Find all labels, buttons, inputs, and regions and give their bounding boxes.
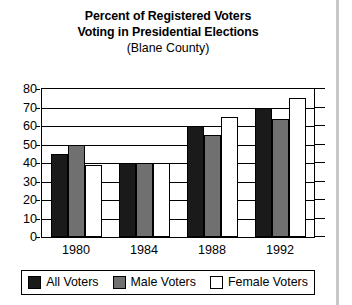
right-axis-tick-20: [315, 199, 325, 200]
x-axis-label-1984: 1984: [110, 243, 178, 257]
y-axis-tick-labels: 01020304050607080: [0, 88, 37, 238]
y-axis-label-0: 0: [5, 231, 37, 244]
y-axis-label-50: 50: [5, 138, 37, 151]
x-axis-tick-labels: 1980198419881992: [42, 243, 314, 259]
bar-1988-all-voters: [187, 126, 204, 237]
legend-entry-all-voters[interactable]: All Voters: [28, 276, 98, 289]
white-swatch-icon: [210, 276, 223, 289]
right-axis-ticks: [315, 88, 327, 238]
legend-entry-male-voters[interactable]: Male Voters: [113, 276, 196, 289]
right-axis-tick-40: [315, 162, 325, 163]
y-axis-label-10: 10: [5, 212, 37, 225]
x-axis-label-1988: 1988: [178, 243, 246, 257]
bar-group-1992: [246, 89, 314, 237]
black-swatch-icon: [28, 276, 41, 289]
y-axis-tick-30: [36, 182, 40, 183]
y-axis-label-20: 20: [5, 194, 37, 207]
chart-legend: All VotersMale VotersFemale Voters: [21, 270, 315, 295]
y-axis-label-80: 80: [5, 83, 37, 96]
bar-1992-male-voters: [272, 119, 289, 237]
bar-1992-female-voters: [289, 98, 306, 237]
bars-layer: [42, 89, 314, 237]
bar-1988-female-voters: [221, 117, 238, 237]
y-axis-label-40: 40: [5, 157, 37, 170]
bar-1984-male-voters: [136, 163, 153, 237]
bar-1984-female-voters: [153, 163, 170, 237]
right-axis-tick-50: [315, 144, 325, 145]
legend-label: Male Voters: [131, 276, 196, 289]
y-axis-tick-50: [36, 145, 40, 146]
legend-label: Female Voters: [228, 276, 308, 289]
y-axis-tick-60: [36, 126, 40, 127]
chart-subtitle: (Blane County): [0, 40, 336, 57]
bar-group-1980: [42, 89, 110, 237]
x-axis-label-1992: 1992: [246, 243, 314, 257]
y-axis-tick-20: [36, 200, 40, 201]
right-axis-tick-60: [315, 125, 325, 126]
right-axis-tick-10: [315, 218, 325, 219]
y-axis-tick-80: [36, 89, 40, 90]
chart-title-block: Percent of Registered Voters Voting in P…: [0, 9, 336, 57]
bar-1988-male-voters: [204, 135, 221, 237]
y-axis-label-30: 30: [5, 175, 37, 188]
bar-1980-all-voters: [51, 154, 68, 237]
right-axis-tick-0: [315, 236, 325, 237]
chart-title-line-1: Percent of Registered Voters: [0, 9, 336, 25]
right-axis-tick-80: [315, 88, 325, 89]
legend-entry-female-voters[interactable]: Female Voters: [210, 276, 308, 289]
bar-group-1988: [178, 89, 246, 237]
legend-label: All Voters: [46, 276, 98, 289]
right-axis-tick-30: [315, 181, 325, 182]
y-axis-tick-10: [36, 219, 40, 220]
right-edge-band: [336, 0, 339, 305]
y-axis-tick-40: [36, 163, 40, 164]
bar-1984-all-voters: [119, 163, 136, 237]
bar-chart-figure: Percent of Registered Voters Voting in P…: [0, 0, 336, 305]
y-axis-tick-70: [36, 108, 40, 109]
bar-1992-all-voters: [255, 108, 272, 238]
gray-swatch-icon: [113, 276, 126, 289]
bar-1980-male-voters: [68, 145, 85, 238]
y-axis-label-70: 70: [5, 101, 37, 114]
y-axis-tick-0: [36, 237, 40, 238]
y-axis-label-60: 60: [5, 120, 37, 133]
chart-title-line-2: Voting in Presidential Elections: [0, 25, 336, 41]
bar-group-1984: [110, 89, 178, 237]
x-axis-label-1980: 1980: [42, 243, 110, 257]
bar-1980-female-voters: [85, 165, 102, 237]
right-axis-tick-70: [315, 107, 325, 108]
